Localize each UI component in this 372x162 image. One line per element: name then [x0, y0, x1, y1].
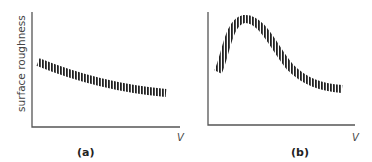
x-axis-label-b: V [352, 132, 360, 143]
panel-label-b: (b) [291, 146, 309, 159]
panel-b: V (b) [208, 12, 360, 159]
panel-label-a: (a) [77, 146, 94, 159]
panel-a: surface roughness V (a) [15, 12, 185, 159]
figure-canvas: surface roughness V (a) V (b) [0, 0, 372, 162]
curve-a [38, 62, 166, 93]
curve-b [218, 19, 342, 89]
x-axis-label-a: V [177, 132, 185, 143]
y-axis-label: surface roughness [15, 15, 27, 112]
